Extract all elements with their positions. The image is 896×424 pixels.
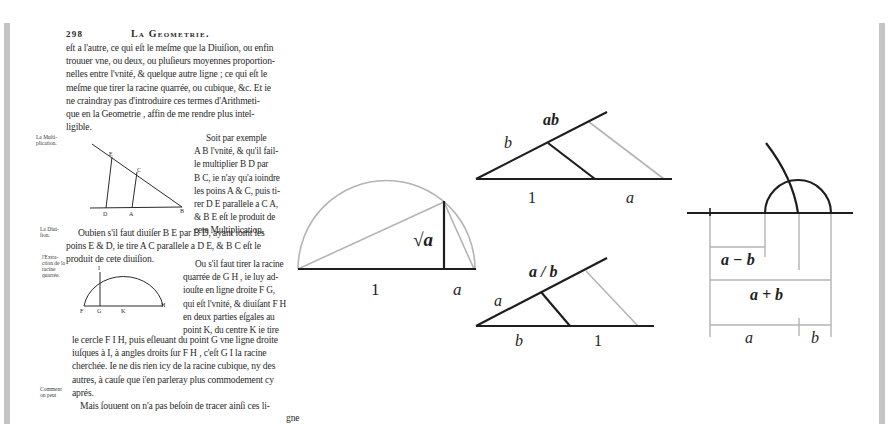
label-one: 1 xyxy=(371,280,380,299)
label-one: 1 xyxy=(594,332,602,349)
label-a: a xyxy=(453,280,462,299)
label-a-over-b: a / b xyxy=(529,263,557,280)
label-a: a xyxy=(745,329,753,346)
label-B: B xyxy=(180,208,184,214)
multiplication-figure xyxy=(90,144,182,208)
label-I: I xyxy=(98,265,100,271)
label-C: C xyxy=(137,167,141,173)
label-one: 1 xyxy=(528,189,536,206)
label-D: D xyxy=(103,211,108,217)
sqrt-diagram: √a 1 a xyxy=(298,180,476,299)
label-a-plus-b: a + b xyxy=(750,286,783,303)
label-a: a xyxy=(626,189,634,206)
label-A: A xyxy=(129,211,134,217)
label-a: a xyxy=(494,292,502,309)
product-diagram: ab b 1 a xyxy=(476,111,672,206)
label-b: b xyxy=(811,329,819,346)
sum-difference-diagram: a − b a + b a b xyxy=(687,143,853,346)
geometry-figures: E C D A B I F G K H √a 1 a xyxy=(0,0,896,424)
label-b: b xyxy=(515,332,523,349)
label-H: H xyxy=(161,302,166,308)
label-ab: ab xyxy=(543,111,559,128)
book-page-scan: 298 La Geometrie. eſt a l'autre, ce qui … xyxy=(0,0,896,424)
label-G: G xyxy=(97,308,102,314)
label-K: K xyxy=(121,308,126,314)
label-b: b xyxy=(504,134,512,151)
label-F: F xyxy=(80,308,84,314)
quotient-diagram: a / b a b 1 xyxy=(476,258,654,349)
label-a-minus-b: a − b xyxy=(721,251,755,268)
label-E: E xyxy=(109,151,113,157)
label-sqrt-a: √a xyxy=(413,229,433,250)
root-extraction-figure xyxy=(84,272,163,306)
